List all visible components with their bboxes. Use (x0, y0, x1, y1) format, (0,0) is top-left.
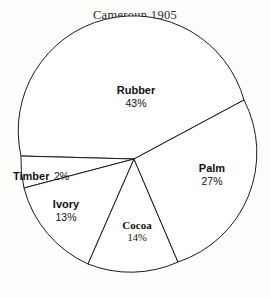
slice-name-cocoa: Cocoa (102, 219, 172, 232)
slice-name-rubber: Rubber (94, 84, 178, 97)
slice-label-rubber: Rubber 43% (94, 84, 178, 109)
slice-label-ivory: Ivory 13% (36, 198, 96, 223)
slice-percent-ivory: 13% (36, 211, 96, 223)
pie-svg (0, 0, 270, 298)
slice-name-timber: Timber (13, 170, 49, 182)
slice-label-timber: Timber 2% (13, 166, 69, 185)
pie-canvas (0, 0, 270, 298)
slice-percent-timber: 2% (54, 170, 69, 182)
slice-label-palm: Palm 27% (182, 162, 242, 187)
slice-percent-cocoa: 14% (102, 232, 172, 244)
slice-percent-rubber: 43% (94, 97, 178, 109)
slice-label-cocoa: Cocoa 14% (102, 219, 172, 244)
slice-percent-palm: 27% (182, 175, 242, 187)
slice-name-palm: Palm (182, 162, 242, 175)
pie-chart-figure: Cameroun 1905 Rubber 43% Palm 27% Cocoa … (0, 0, 270, 298)
slice-name-ivory: Ivory (36, 198, 96, 211)
